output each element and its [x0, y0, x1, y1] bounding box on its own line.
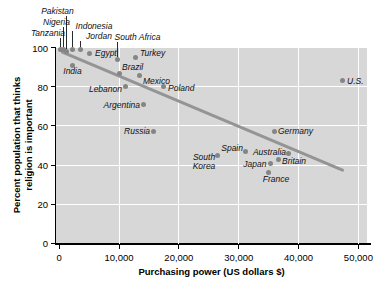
label-spain: Spain — [221, 143, 243, 152]
label-japan: Japan — [243, 159, 266, 168]
y-tick-label-0: 0 — [20, 238, 48, 249]
point-russia — [151, 129, 156, 134]
x-tick-10000 — [119, 245, 120, 250]
label-germany: Germany — [278, 127, 313, 136]
x-tick-label-10000: 10,000 — [105, 252, 134, 263]
point-turkey — [133, 55, 138, 60]
label-russia: Russia — [124, 127, 150, 136]
label-indonesia: Indonesia — [76, 21, 113, 30]
x-tick-label-40000: 40,000 — [284, 252, 313, 263]
label-britain: Britain — [282, 156, 306, 165]
x-tick-label-20000: 20,000 — [164, 252, 193, 263]
x-tick-20000 — [178, 245, 179, 250]
label-brazil: Brazil — [122, 63, 143, 72]
gridline-x-20000 — [178, 48, 179, 245]
y-axis-title-line1: Percent population that thinks — [11, 77, 23, 214]
gridline-y-60 — [56, 125, 367, 126]
y-tick-40 — [51, 165, 56, 166]
y-tick-label-100: 100 — [20, 43, 48, 54]
x-tick-50000 — [358, 245, 359, 250]
y-tick-20 — [51, 204, 56, 205]
point-mexico — [137, 73, 142, 78]
y-tick-label-20: 20 — [20, 199, 48, 210]
y-tick-label-80: 80 — [20, 82, 48, 93]
label-tanzania: Tanzania — [31, 28, 65, 37]
gridline-x-40000 — [298, 48, 299, 245]
x-tick-40000 — [298, 245, 299, 250]
x-axis-line — [55, 243, 371, 245]
point-germany — [272, 129, 277, 134]
x-tick-30000 — [238, 245, 239, 250]
x-tick-0 — [59, 245, 60, 250]
label-turkey: Turkey — [140, 49, 165, 58]
point-south-africa — [115, 57, 120, 62]
label-mexico: Mexico — [143, 77, 170, 86]
x-axis-title: Purchasing power (US dollars $) — [56, 266, 367, 277]
religion-vs-income-scatter-figure: 010,00020,00030,00040,00050,000020406080… — [0, 0, 385, 299]
label-south-korea: South Korea — [193, 153, 216, 171]
label-u-s: U.S. — [347, 76, 364, 85]
x-tick-label-30000: 30,000 — [224, 252, 253, 263]
plot-area — [56, 48, 367, 245]
y-tick-80 — [51, 86, 56, 87]
y-tick-60 — [51, 125, 56, 126]
label-egypt: Egypt — [95, 48, 117, 57]
y-tick-label-40: 40 — [20, 160, 48, 171]
y-axis-title: Percent population that thinks religion … — [11, 77, 34, 214]
leader-indonesia — [72, 31, 73, 48]
y-tick-100 — [51, 47, 56, 48]
point-britain — [276, 157, 281, 162]
point-japan — [268, 161, 273, 166]
y-axis-line — [55, 47, 57, 245]
leader-tanzania — [60, 38, 61, 48]
label-poland: Poland — [168, 83, 194, 92]
label-india: India — [63, 67, 81, 76]
y-axis-title-line2: religion is important — [22, 77, 34, 214]
y-tick-label-60: 60 — [20, 121, 48, 132]
label-nigeria: Nigeria — [43, 18, 70, 27]
label-argentina: Argentina — [104, 100, 140, 109]
label-lebanon: Lebanon — [89, 84, 122, 93]
gridline-y-20 — [56, 204, 367, 205]
x-tick-label-0: 0 — [57, 252, 62, 263]
point-argentina — [141, 102, 146, 107]
y-tick-0 — [51, 243, 56, 244]
x-tick-label-50000: 50,000 — [344, 252, 373, 263]
label-france: France — [263, 175, 289, 184]
label-pakistan: Pakistan — [41, 7, 74, 16]
label-south-africa: South Africa — [115, 33, 161, 42]
label-jordan: Jordan — [86, 31, 112, 40]
